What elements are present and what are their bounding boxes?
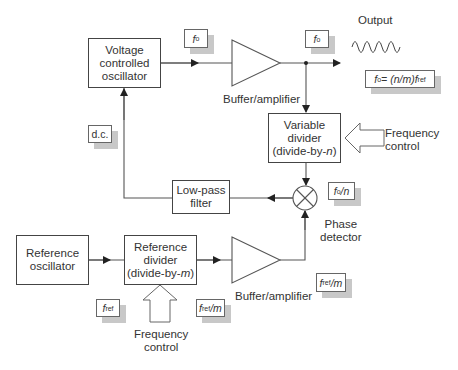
- phase-detector-label-2: detector: [320, 231, 362, 244]
- refosc-label-2: oscillator: [30, 260, 75, 273]
- lpf-label-1: Low-pass: [176, 184, 225, 197]
- buffer-amplifier-bottom: [232, 237, 280, 283]
- tag-f0-output: fo: [305, 30, 329, 48]
- frequency-control-arrow-right: [345, 123, 384, 153]
- sine-wave-icon: [352, 42, 400, 53]
- output-label: Output: [358, 14, 393, 27]
- freq-control-right-2: control: [385, 140, 439, 153]
- phase-detector-symbol: [293, 186, 317, 210]
- tag-fref-over-m-1: fref/m: [196, 299, 225, 317]
- lpf-label-2: filter: [190, 197, 212, 210]
- refdiv-label-1: Reference: [134, 241, 187, 254]
- buffer-amplifier-top: [232, 40, 280, 86]
- refdiv-label-2: divider: [144, 254, 178, 267]
- voltage-controlled-oscillator: Voltage controlled oscillator: [88, 38, 161, 88]
- freq-control-right-1: Frequency: [385, 127, 439, 140]
- tag-dc: d.c.: [88, 125, 112, 143]
- vardiv-label-1: Variable: [284, 119, 325, 132]
- tag-f0-over-n: fo/n: [328, 182, 355, 200]
- vardiv-label-3: (divide-by-n): [273, 145, 337, 158]
- reference-oscillator: Reference oscillator: [16, 235, 89, 285]
- low-pass-filter: Low-pass filter: [172, 180, 230, 214]
- freq-control-bottom-1: Frequency: [134, 328, 188, 341]
- refosc-label-1: Reference: [26, 247, 79, 260]
- buffer-amplifier-bottom-label: Buffer/amplifier: [235, 290, 312, 303]
- vardiv-label-2: divider: [288, 132, 322, 145]
- freq-control-bottom-2: control: [134, 341, 188, 354]
- vco-label-2: controlled: [100, 57, 150, 70]
- tag-output-formula: fo = (n/m)fref: [365, 70, 435, 88]
- tag-fref-over-m-2: fref/m: [316, 273, 346, 292]
- junction-dot: [304, 61, 308, 65]
- variable-divider: Variable divider (divide-by-n): [268, 113, 341, 163]
- tag-f0-vco: fo: [184, 29, 208, 48]
- frequency-control-arrow-bottom: [143, 285, 177, 322]
- tag-fref: fref: [96, 299, 120, 317]
- phase-detector-label: Phase detector: [320, 218, 362, 244]
- refdiv-label-3: (divide-by-m): [127, 267, 194, 280]
- frequency-control-bottom-label: Frequency control: [134, 328, 188, 354]
- vco-label-3: oscillator: [102, 70, 147, 83]
- buffer-amplifier-top-label: Buffer/amplifier: [223, 93, 300, 106]
- vco-label-1: Voltage: [105, 44, 143, 57]
- frequency-control-right-label: Frequency control: [385, 127, 439, 153]
- phase-detector-label-1: Phase: [320, 218, 362, 231]
- reference-divider: Reference divider (divide-by-m): [124, 235, 197, 285]
